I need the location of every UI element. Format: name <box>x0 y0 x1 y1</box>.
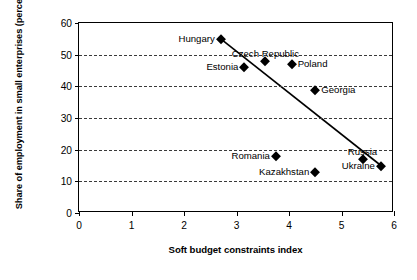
x-tick-label: 6 <box>391 220 397 231</box>
x-tick-label: 3 <box>234 220 240 231</box>
y-tick-label: 30 <box>42 113 79 124</box>
data-point-label: Czech Republic <box>232 49 299 59</box>
y-axis-title-text: Share of employment in small enterprises… <box>13 21 26 209</box>
x-axis-title: Soft budget constraints index <box>78 244 393 255</box>
y-axis-title: Share of employment in small enterprises… <box>2 20 36 210</box>
x-tick-label: 4 <box>286 220 292 231</box>
scatter-chart-figure: Share of employment in small enterprises… <box>0 0 417 280</box>
data-point-label: Romania <box>231 151 269 161</box>
y-tick-label: 60 <box>42 18 79 29</box>
x-tick-label: 0 <box>76 220 82 231</box>
x-tick-label: 5 <box>339 220 345 231</box>
plot-area: 01020304050600123456HungaryEstoniaCzech … <box>78 22 393 212</box>
x-tick-label: 2 <box>181 220 187 231</box>
x-tick-mark <box>342 211 343 216</box>
y-tick-label: 20 <box>42 144 79 155</box>
y-tick-label: 0 <box>42 208 79 219</box>
data-point-label: Estonia <box>206 62 238 72</box>
data-point-label: Poland <box>298 59 328 69</box>
x-tick-mark <box>79 211 80 216</box>
y-tick-label: 40 <box>42 81 79 92</box>
data-point-label: Russia <box>348 147 377 157</box>
data-point-label: Ukraine <box>342 161 375 171</box>
x-tick-mark <box>132 211 133 216</box>
y-tick-label: 50 <box>42 49 79 60</box>
y-tick-label: 10 <box>42 176 79 187</box>
x-tick-mark <box>394 211 395 216</box>
data-point-label: Kazakhstan <box>259 167 309 177</box>
x-tick-mark <box>237 211 238 216</box>
gridline <box>79 181 392 182</box>
gridline <box>79 118 392 119</box>
x-tick-mark <box>289 211 290 216</box>
data-point-label: Hungary <box>178 34 214 44</box>
data-point-label: Georgia <box>321 85 355 95</box>
x-tick-label: 1 <box>129 220 135 231</box>
x-tick-mark <box>184 211 185 216</box>
